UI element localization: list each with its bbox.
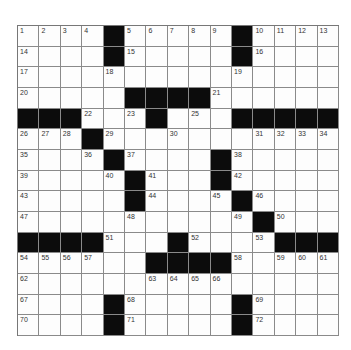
grid-cell[interactable]: 52 [189, 233, 210, 254]
grid-cell[interactable] [253, 274, 274, 295]
grid-cell[interactable]: 32 [275, 129, 296, 150]
grid-cell[interactable] [296, 171, 317, 192]
grid-cell[interactable] [275, 295, 296, 316]
grid-cell[interactable]: 6 [146, 26, 167, 47]
grid-cell[interactable]: 3 [61, 26, 82, 47]
grid-cell[interactable] [39, 47, 60, 68]
grid-cell[interactable]: 48 [125, 212, 146, 233]
grid-cell[interactable]: 27 [39, 129, 60, 150]
grid-cell[interactable] [104, 212, 125, 233]
grid-cell[interactable] [296, 191, 317, 212]
grid-cell[interactable] [168, 295, 189, 316]
grid-cell[interactable] [168, 315, 189, 336]
grid-cell[interactable]: 72 [253, 315, 274, 336]
grid-cell[interactable]: 14 [18, 47, 39, 68]
grid-cell[interactable] [168, 109, 189, 130]
grid-cell[interactable] [61, 274, 82, 295]
grid-cell[interactable] [39, 150, 60, 171]
grid-cell[interactable] [39, 171, 60, 192]
grid-cell[interactable] [82, 212, 103, 233]
grid-cell[interactable] [318, 67, 339, 88]
grid-cell[interactable] [318, 191, 339, 212]
grid-cell[interactable]: 60 [296, 253, 317, 274]
grid-cell[interactable] [61, 47, 82, 68]
grid-cell[interactable] [232, 274, 253, 295]
grid-cell[interactable] [61, 150, 82, 171]
grid-cell[interactable]: 34 [318, 129, 339, 150]
grid-cell[interactable] [253, 171, 274, 192]
grid-cell[interactable] [296, 274, 317, 295]
grid-cell[interactable] [253, 253, 274, 274]
grid-cell[interactable]: 61 [318, 253, 339, 274]
grid-cell[interactable]: 40 [104, 171, 125, 192]
grid-cell[interactable] [318, 171, 339, 192]
grid-cell[interactable]: 7 [168, 26, 189, 47]
grid-cell[interactable] [39, 67, 60, 88]
grid-cell[interactable] [275, 191, 296, 212]
grid-cell[interactable] [125, 233, 146, 254]
grid-cell[interactable] [146, 233, 167, 254]
grid-cell[interactable]: 13 [318, 26, 339, 47]
grid-cell[interactable]: 46 [253, 191, 274, 212]
grid-cell[interactable] [61, 212, 82, 233]
grid-cell[interactable] [211, 109, 232, 130]
grid-cell[interactable]: 38 [232, 150, 253, 171]
grid-cell[interactable] [318, 88, 339, 109]
grid-cell[interactable] [189, 129, 210, 150]
grid-cell[interactable] [275, 150, 296, 171]
grid-cell[interactable]: 4 [82, 26, 103, 47]
grid-cell[interactable]: 50 [275, 212, 296, 233]
grid-cell[interactable]: 47 [18, 212, 39, 233]
grid-cell[interactable]: 26 [18, 129, 39, 150]
grid-cell[interactable]: 29 [104, 129, 125, 150]
grid-cell[interactable] [318, 212, 339, 233]
grid-cell[interactable]: 64 [168, 274, 189, 295]
grid-cell[interactable]: 70 [18, 315, 39, 336]
grid-cell[interactable]: 42 [232, 171, 253, 192]
grid-cell[interactable] [168, 150, 189, 171]
grid-cell[interactable] [318, 150, 339, 171]
grid-cell[interactable]: 15 [125, 47, 146, 68]
grid-cell[interactable]: 17 [18, 67, 39, 88]
grid-cell[interactable] [189, 295, 210, 316]
grid-cell[interactable]: 54 [18, 253, 39, 274]
grid-cell[interactable]: 55 [39, 253, 60, 274]
grid-cell[interactable]: 58 [232, 253, 253, 274]
grid-cell[interactable]: 12 [296, 26, 317, 47]
grid-cell[interactable] [275, 67, 296, 88]
grid-cell[interactable] [146, 47, 167, 68]
grid-cell[interactable] [318, 315, 339, 336]
grid-cell[interactable] [125, 129, 146, 150]
grid-cell[interactable]: 20 [18, 88, 39, 109]
grid-cell[interactable] [318, 295, 339, 316]
grid-cell[interactable]: 23 [125, 109, 146, 130]
grid-cell[interactable]: 5 [125, 26, 146, 47]
grid-cell[interactable] [82, 47, 103, 68]
grid-cell[interactable] [125, 253, 146, 274]
grid-cell[interactable]: 45 [211, 191, 232, 212]
grid-cell[interactable] [146, 315, 167, 336]
grid-cell[interactable] [189, 212, 210, 233]
grid-cell[interactable]: 41 [146, 171, 167, 192]
grid-cell[interactable]: 25 [189, 109, 210, 130]
grid-cell[interactable]: 18 [104, 67, 125, 88]
grid-cell[interactable] [104, 109, 125, 130]
grid-cell[interactable]: 28 [61, 129, 82, 150]
grid-cell[interactable] [275, 274, 296, 295]
grid-cell[interactable] [168, 67, 189, 88]
grid-cell[interactable] [61, 191, 82, 212]
grid-cell[interactable]: 65 [189, 274, 210, 295]
grid-cell[interactable] [189, 171, 210, 192]
grid-cell[interactable]: 33 [296, 129, 317, 150]
grid-cell[interactable]: 30 [168, 129, 189, 150]
grid-cell[interactable] [318, 47, 339, 68]
grid-cell[interactable]: 2 [39, 26, 60, 47]
grid-cell[interactable] [61, 295, 82, 316]
grid-cell[interactable] [296, 88, 317, 109]
grid-cell[interactable] [146, 129, 167, 150]
grid-cell[interactable] [125, 274, 146, 295]
grid-cell[interactable]: 59 [275, 253, 296, 274]
grid-cell[interactable]: 49 [232, 212, 253, 233]
grid-cell[interactable] [82, 88, 103, 109]
grid-cell[interactable] [82, 274, 103, 295]
